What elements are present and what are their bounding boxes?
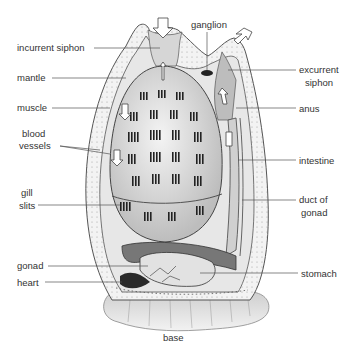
label-heart: heart [17,277,39,288]
label-stomach: stomach [301,268,337,279]
gill-basket [110,66,222,242]
ganglion-organ [201,70,213,76]
label-gonad-right: gonad [301,207,327,218]
label-excurrent: excurrent [299,64,339,75]
label-mantle: mantle [17,72,46,83]
label-siphon: siphon [305,77,333,88]
label-muscle: muscle [17,102,47,113]
label-blood: blood [22,128,45,139]
label-anus: anus [299,103,320,114]
label-intestine: intestine [299,155,334,166]
label-gill: gill [21,187,33,198]
label-gonad-left: gonad [17,260,43,271]
label-incurrent-siphon: incurrent siphon [17,42,85,53]
label-base: base [163,332,184,343]
label-duct-of: duct of [299,194,328,205]
label-ganglion: ganglion [191,19,227,30]
label-slits: slits [19,200,35,211]
label-vessels: vessels [19,140,51,151]
